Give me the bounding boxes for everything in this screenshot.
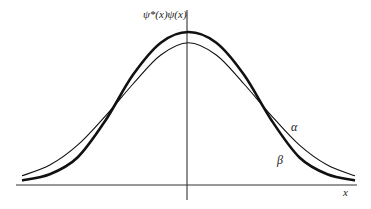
series-beta-label: β — [276, 153, 283, 167]
series-alpha-curve — [22, 43, 355, 176]
x-axis-label: x — [342, 186, 348, 198]
series-beta-curve — [22, 32, 355, 180]
probability-density-chart: ψ*(x)ψ(x) x α β — [0, 0, 371, 209]
y-axis-label: ψ*(x)ψ(x) — [143, 8, 187, 21]
series-alpha-label: α — [291, 120, 298, 134]
